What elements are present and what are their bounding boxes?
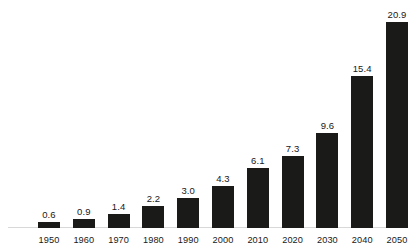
bar-value-label: 0.9 xyxy=(66,206,102,217)
x-axis-tick-label: 1990 xyxy=(169,235,207,246)
bar xyxy=(351,76,373,228)
bar-value-label: 0.6 xyxy=(31,209,67,220)
bar-group: 2.21980 xyxy=(142,0,164,251)
bar-group: 6.12010 xyxy=(247,0,269,251)
bar-group: 7.32020 xyxy=(282,0,304,251)
bar-value-label: 9.6 xyxy=(309,120,345,131)
x-axis-tick-label: 1970 xyxy=(100,235,138,246)
x-axis-baseline xyxy=(8,227,401,228)
bar-value-label: 3.0 xyxy=(170,185,206,196)
bar xyxy=(38,222,60,228)
bar xyxy=(73,219,95,228)
bar-value-label: 20.9 xyxy=(379,9,412,20)
x-axis-tick-label: 2010 xyxy=(239,235,277,246)
bar xyxy=(386,22,408,228)
bar xyxy=(212,186,234,228)
bar xyxy=(316,133,338,228)
x-axis-tick-label: 1980 xyxy=(134,235,172,246)
x-axis-tick-label: 2030 xyxy=(308,235,346,246)
bar-group: 20.92050 xyxy=(386,0,408,251)
bar-value-label: 15.4 xyxy=(344,63,380,74)
bar-group: 0.91960 xyxy=(73,0,95,251)
x-axis-tick-label: 1960 xyxy=(65,235,103,246)
bar-value-label: 7.3 xyxy=(275,143,311,154)
x-axis-tick-label: 2050 xyxy=(378,235,412,246)
bar-group: 4.32000 xyxy=(212,0,234,251)
bar-group: 9.62030 xyxy=(316,0,338,251)
bar xyxy=(247,168,269,228)
bar-group: 15.42040 xyxy=(351,0,373,251)
bar-value-label: 6.1 xyxy=(240,155,276,166)
bar xyxy=(108,214,130,228)
bar-value-label: 1.4 xyxy=(101,201,137,212)
bar xyxy=(177,198,199,228)
bar-group: 0.61950 xyxy=(38,0,60,251)
bar-group: 3.01990 xyxy=(177,0,199,251)
bar-value-label: 2.2 xyxy=(135,193,171,204)
x-axis-tick-label: 2020 xyxy=(274,235,312,246)
bar-value-label: 4.3 xyxy=(205,173,241,184)
bar xyxy=(282,156,304,228)
x-axis-tick-label: 2040 xyxy=(343,235,381,246)
x-axis-tick-label: 2000 xyxy=(204,235,242,246)
x-axis-tick-label: 1950 xyxy=(30,235,68,246)
bar-group: 1.41970 xyxy=(108,0,130,251)
bar xyxy=(142,206,164,228)
